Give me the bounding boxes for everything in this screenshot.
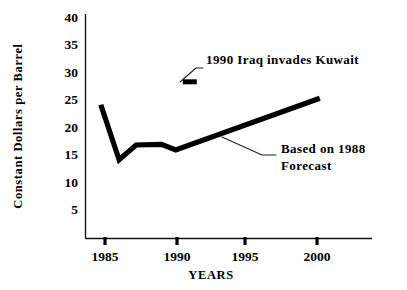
forecast-annotation-label-line1: Based on 1988: [281, 141, 366, 156]
y-axis-title: Constant Dollars per Barrel: [11, 43, 25, 208]
y-tick-label-40: 40: [65, 10, 79, 25]
y-tick-label-15: 15: [65, 147, 79, 162]
x-tick-label-1995: 1995: [232, 249, 259, 264]
oil-price-chart: 40 35 30 25 20 15 10 5 1985 1990 1995 20…: [0, 0, 407, 290]
iraq-event-marker: [183, 79, 197, 84]
x-tick-label-1990: 1990: [164, 249, 191, 264]
chart-svg: 40 35 30 25 20 15 10 5 1985 1990 1995 20…: [0, 0, 407, 290]
forecast-annotation-leader-line: [222, 137, 276, 155]
forecast-annotation-label-line2: Forecast: [281, 158, 332, 173]
y-tick-label-25: 25: [65, 92, 79, 107]
iraq-annotation-label: 1990 Iraq invades Kuwait: [206, 52, 359, 67]
y-tick-label-20: 20: [65, 120, 79, 135]
y-tick-label-10: 10: [65, 175, 79, 190]
y-tick-label-35: 35: [65, 37, 79, 52]
x-axis-title: YEARS: [188, 268, 233, 282]
x-tick-label-2000: 2000: [304, 249, 331, 264]
y-tick-label-30: 30: [65, 65, 79, 80]
x-tick-label-1985: 1985: [92, 249, 119, 264]
y-tick-label-5: 5: [71, 202, 78, 217]
